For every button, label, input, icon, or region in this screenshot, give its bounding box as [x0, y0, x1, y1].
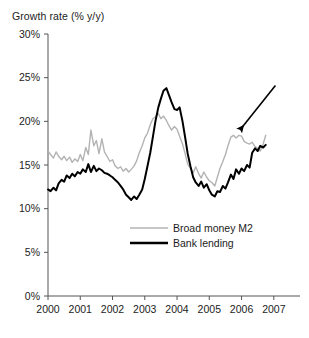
series-line-bank-lending — [48, 88, 266, 200]
y-axis-tick-labels: 0%5%10%15%20%25%30% — [19, 28, 40, 302]
x-axis-tick-label: 2000 — [36, 303, 60, 315]
x-axis-ticks — [48, 296, 274, 300]
y-axis-tick-label: 10% — [19, 202, 40, 214]
y-axis-tick-label: 20% — [19, 115, 40, 127]
y-axis-tick-label: 15% — [19, 159, 40, 171]
chart-plot-svg: 0%5%10%15%20%25%30% 20002001200220032004… — [0, 0, 309, 338]
x-axis-tick-label: 2005 — [198, 303, 222, 315]
x-axis-tick-label: 2003 — [133, 303, 157, 315]
y-axis-tick-label: 5% — [25, 246, 40, 258]
x-axis-tick-label: 2002 — [101, 303, 125, 315]
arrow-annotation-icon — [240, 86, 275, 131]
legend-label-bank-lending: Bank lending — [173, 237, 234, 249]
x-axis-tick-label: 2004 — [165, 303, 189, 315]
y-axis-tick-label: 25% — [19, 71, 40, 83]
series-line-broad-money-m2 — [48, 113, 266, 185]
chart-legend: Broad money M2 Bank lending — [130, 222, 253, 249]
legend-label-broad-money-m2: Broad money M2 — [173, 222, 253, 234]
x-axis-tick-label: 2001 — [69, 303, 93, 315]
chart-container: Growth rate (% y/y) 0%5%10%15%20%25%30% … — [0, 0, 309, 338]
annotation-group — [240, 86, 275, 131]
y-axis-ticks — [44, 34, 48, 296]
x-axis-tick-labels: 20002001200220032004200520062007 — [36, 303, 285, 315]
y-axis-tick-label: 30% — [19, 28, 40, 40]
x-axis-tick-label: 2007 — [262, 303, 286, 315]
y-axis-group: 0%5%10%15%20%25%30% — [19, 28, 48, 302]
data-series-group — [48, 88, 266, 200]
x-axis-group: 20002001200220032004200520062007 — [36, 296, 300, 315]
x-axis-tick-label: 2006 — [230, 303, 254, 315]
y-axis-tick-label: 0% — [25, 290, 40, 302]
